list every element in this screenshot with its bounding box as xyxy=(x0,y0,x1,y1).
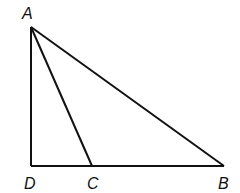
label-b: B xyxy=(218,175,229,192)
triangle-diagram: A D C B xyxy=(0,0,240,193)
label-a: A xyxy=(21,5,33,22)
label-d: D xyxy=(24,175,36,192)
label-c: C xyxy=(87,175,99,192)
segment-ab xyxy=(31,27,224,166)
